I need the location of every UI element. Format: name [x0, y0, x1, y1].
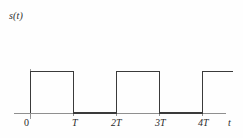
x-tick-label-2T: 2T: [111, 118, 122, 128]
signal-waveform-trace: [31, 72, 233, 114]
x-tick-label-4T: 4T: [198, 118, 209, 128]
x-tick-label-0: 0: [24, 118, 29, 128]
signal-plot-figure: s(t) t 0 T 2T 3T 4T: [0, 0, 243, 138]
x-axis-label: t: [228, 118, 231, 128]
x-tick-label-T: T: [72, 118, 78, 128]
x-tick-label-3T: 3T: [155, 118, 166, 128]
y-axis-label: s(t): [9, 11, 23, 21]
